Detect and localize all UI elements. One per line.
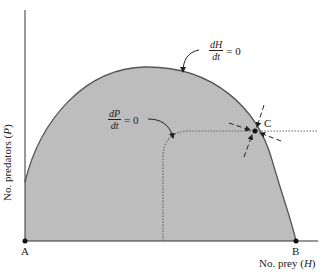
x-axis-label: No. prey (H) xyxy=(259,258,316,269)
point-b-marker xyxy=(294,239,299,244)
x-axis-variable: H xyxy=(304,257,312,269)
prey-isocline-label: dH dt = 0 xyxy=(209,39,241,62)
prey-isocline-numerator: dH xyxy=(209,39,223,51)
predator-isocline-denominator: dt xyxy=(110,120,120,131)
shaded-region xyxy=(25,67,296,241)
point-c-label: C xyxy=(264,118,271,129)
x-axis-label-close: ) xyxy=(312,257,316,269)
predator-isocline-label: dP dt = 0 xyxy=(108,108,139,131)
predator-isocline-fraction: dP dt xyxy=(108,108,121,131)
prey-isocline-equals: = 0 xyxy=(226,45,240,57)
point-c-marker xyxy=(253,129,258,134)
prey-isocline-fraction: dH dt xyxy=(209,39,223,62)
point-b-label: B xyxy=(292,246,299,257)
prey-isocline-pointer-arrow xyxy=(183,50,199,72)
point-a-marker xyxy=(23,239,28,244)
y-axis-label-text: No. predators ( xyxy=(1,135,13,201)
predator-isocline-equals: = 0 xyxy=(124,114,138,126)
y-axis-label: No. predators (P) xyxy=(2,124,13,201)
prey-isocline-denominator: dt xyxy=(211,51,221,62)
y-axis-variable: P xyxy=(1,128,13,135)
x-axis-label-text: No. prey ( xyxy=(259,257,304,269)
y-axis-label-close: ) xyxy=(1,124,13,128)
diagram-canvas xyxy=(0,0,331,275)
predator-isocline-numerator: dP xyxy=(108,108,121,120)
point-a-label: A xyxy=(21,246,29,257)
